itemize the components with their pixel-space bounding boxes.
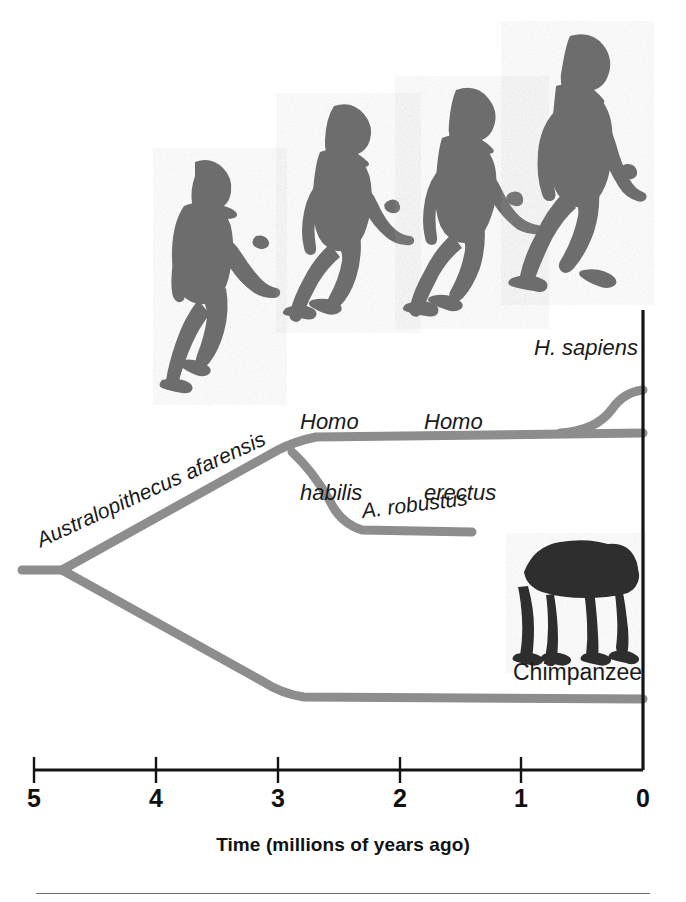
axis-title: Time (millions of years ago) (0, 834, 686, 856)
bottom-divider (36, 893, 650, 894)
axis-tick-label-5: 5 (14, 784, 54, 813)
time-axis (0, 0, 686, 902)
axis-tick-label-2: 2 (380, 784, 420, 813)
axis-tick-label-1: 1 (501, 784, 541, 813)
axis-tick-label-4: 4 (136, 784, 176, 813)
axis-tick-label-0: 0 (623, 784, 663, 813)
hominin-phylogeny-figure: Australopithecus afarensis Homo habilis … (0, 0, 686, 902)
axis-tick-label-3: 3 (258, 784, 298, 813)
